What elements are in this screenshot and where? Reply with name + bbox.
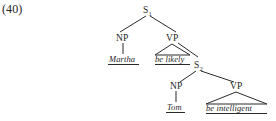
underline-be-likely [155, 64, 190, 65]
node-s1: S1 [143, 5, 152, 19]
underline-be-intelligent [206, 113, 267, 114]
node-s2-subscript: 2 [199, 65, 202, 72]
underline-tom [166, 112, 185, 113]
syntax-tree-figure: (40) S1 NP VP S2 NP VP Martha be likely … [0, 0, 276, 121]
underline-martha [108, 64, 139, 65]
node-s1-subscript: 1 [148, 10, 151, 17]
terminal-be-likely: be likely [155, 55, 184, 64]
node-s2: S2 [194, 60, 203, 74]
terminal-martha: Martha [109, 55, 135, 64]
node-np1: NP [116, 33, 129, 43]
terminal-be-intelligent: be intelligent [206, 104, 252, 113]
branch-s1-vp1 [150, 16, 176, 32]
node-vp2: VP [230, 81, 243, 91]
terminal-tom: Tom [167, 103, 182, 112]
node-np2: NP [170, 81, 183, 91]
node-vp1: VP [166, 33, 179, 43]
